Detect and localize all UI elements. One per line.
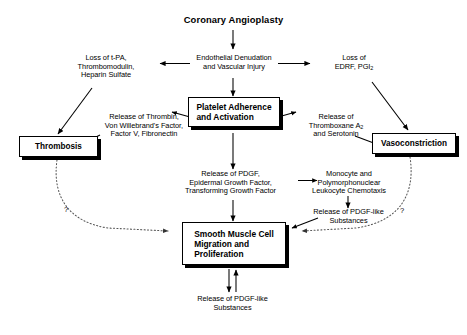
platelet-adherence-label: Platelet Adherence and Activation — [188, 97, 280, 127]
diagram-canvas: Coronary Angioplasty Endothelial Denudat… — [0, 0, 467, 335]
node-loss-of-edrf-subscript: 2 — [370, 65, 373, 71]
smooth-muscle-cell-label: Smooth Muscle Cell Migration and Prolife… — [182, 222, 286, 265]
annotation-question-left: ? — [64, 205, 68, 214]
node-loss-of-edrf-text: EDRF, PGI — [335, 62, 371, 71]
node-thrombosis: Thrombosis — [19, 136, 98, 157]
vasoconstriction-label: Vasoconstriction — [372, 133, 456, 154]
node-vasoconstriction: Vasoconstriction — [372, 133, 456, 154]
node-coronary-angioplasty: Coronary Angioplasty — [156, 14, 311, 25]
connector-layer — [0, 0, 467, 335]
node-platelet-adherence: Platelet Adherence and Activation — [188, 97, 280, 127]
edge-thrombosis-to-smooth-muscle-dotted — [56, 160, 168, 231]
node-release-pdgf-like-bottom: Release of PDGF-like Substances — [184, 295, 281, 312]
thrombosis-label: Thrombosis — [19, 136, 98, 157]
node-monocyte-chemotaxis: Monocyte and Polymorphonuclear Leukocyte… — [303, 170, 395, 196]
node-loss-of-edrf: Loss of EDRF, PGI2 — [312, 54, 396, 71]
node-release-thromboxane-subscript: 2 — [360, 124, 363, 130]
node-release-thromboxane-line3: and Serotonin — [294, 130, 378, 139]
node-loss-of-tpa: Loss of t-PA, Thrombomodulin, Heparin Su… — [54, 54, 158, 80]
annotation-question-right: ? — [400, 206, 404, 215]
node-loss-of-edrf-line2: EDRF, PGI2 — [312, 63, 396, 72]
node-release-of-thrombin: Release of Thrombin, Von Willebrand's Fa… — [86, 113, 202, 139]
node-release-thromboxane-text: Thromboxane A — [309, 121, 361, 130]
node-release-pdgf-like-right: Release of PDGF-like Substances — [300, 208, 397, 225]
node-endothelial-denudation: Endothelial Denudation and Vascular Inju… — [176, 54, 292, 71]
node-release-of-pdgf: Release of PDGF, Epidermal Growth Factor… — [162, 170, 299, 196]
node-release-of-thromboxane: Release of Thromboxane A2 and Serotonin — [294, 113, 378, 139]
node-smooth-muscle-cell: Smooth Muscle Cell Migration and Prolife… — [182, 222, 286, 265]
